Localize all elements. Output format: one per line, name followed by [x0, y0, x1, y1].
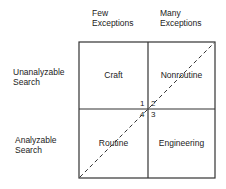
header-line: Unanalyzable [13, 67, 65, 77]
cell-routine: Routine [79, 138, 148, 148]
column-header-many-exceptions: Many Exceptions [160, 8, 202, 28]
row-header-analyzable-search: Analyzable Search [15, 135, 57, 155]
cell-nonroutine: Nonroutine [148, 70, 215, 80]
header-line: Search [15, 145, 57, 155]
header-line: Search [13, 77, 65, 87]
row-header-unanalyzable-search: Unanalyzable Search [13, 67, 65, 87]
quadrant-number-2: 2 [151, 100, 155, 108]
header-line: Exceptions [92, 18, 134, 28]
column-header-few-exceptions: Few Exceptions [92, 8, 134, 28]
header-line: Analyzable [15, 135, 57, 145]
header-line: Many [160, 8, 202, 18]
diagonal-dashed-line [80, 43, 214, 177]
grid-diagram [0, 0, 226, 189]
header-line: Few [92, 8, 134, 18]
quadrant-number-1: 1 [140, 100, 144, 108]
quadrant-number-4: 4 [140, 111, 144, 119]
cell-craft: Craft [79, 70, 148, 80]
header-line: Exceptions [160, 18, 202, 28]
quadrant-number-3: 3 [151, 111, 155, 119]
cell-engineering: Engineering [148, 138, 215, 148]
